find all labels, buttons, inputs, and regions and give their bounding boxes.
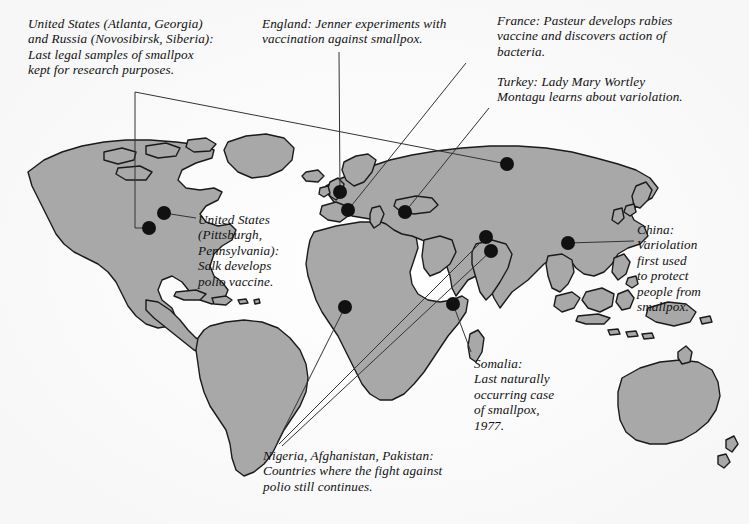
marker-somalia[interactable] <box>446 297 460 311</box>
map-figure: United States (Atlanta, Georgia) and Rus… <box>0 0 749 524</box>
marker-pakistan[interactable] <box>484 244 498 258</box>
land-small-island-2 <box>626 331 638 337</box>
marker-china[interactable] <box>561 236 575 250</box>
land-small-island-1 <box>608 329 620 335</box>
annotation-polio-countries: Nigeria, Afghanistan, Pakistan: Countrie… <box>263 448 513 494</box>
marker-nigeria[interactable] <box>338 300 352 314</box>
annotation-us-russia-samples: United States (Atlanta, Georgia) and Rus… <box>28 16 278 78</box>
land-puerto-rico <box>238 299 248 304</box>
land-iceland <box>302 170 324 182</box>
marker-turkey[interactable] <box>398 205 412 219</box>
marker-england[interactable] <box>333 185 347 199</box>
marker-afghanistan[interactable] <box>479 230 493 244</box>
land-lesser-antilles <box>254 299 260 304</box>
annotation-france-pasteur: France: Pasteur develops rabies vaccine … <box>497 13 735 59</box>
annotation-china-variolation: China: Variolation first used to protect… <box>637 222 745 314</box>
marker-atlanta[interactable] <box>142 221 156 235</box>
annotation-england-jenner: England: Jenner experiments with vaccina… <box>262 16 476 47</box>
annotation-turkey-montagu: Turkey: Lady Mary Wortley Montagu learns… <box>497 74 737 105</box>
marker-russia[interactable] <box>500 157 514 171</box>
land-small-island-3 <box>642 333 654 339</box>
annotation-somalia-last-case: Somalia: Last naturally occurring case o… <box>474 356 594 433</box>
land-cuba <box>174 290 206 300</box>
marker-pittsburgh[interactable] <box>157 206 171 220</box>
land-small-island-4 <box>700 316 712 324</box>
marker-france[interactable] <box>341 203 355 217</box>
annotation-us-salk: United States (Pittsburgh, Pennsylvania)… <box>198 212 308 289</box>
